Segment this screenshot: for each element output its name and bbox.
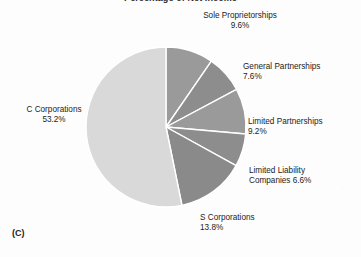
slice-label-c-corporations: C Corporations 53.2% — [8, 105, 100, 126]
slice-label-general-partnerships: General Partnerships 7.6% — [243, 62, 361, 83]
slice-label-name: Limited Liability — [249, 166, 305, 175]
slice-label-name: Limited Partnerships — [248, 117, 323, 126]
slice-label-limited-liability-companies: Limited Liability Companies 6.6% — [249, 166, 361, 187]
slice-label-sole-proprietorships: Sole Proprietorships 9.6% — [175, 11, 305, 32]
pie-svg — [86, 47, 246, 207]
slice-label-name: C Corporations — [26, 105, 81, 114]
pie-chart-figure: Percentage of Net Income Sole Proprietor… — [0, 0, 361, 257]
slice-label-value: 9.2% — [248, 127, 361, 137]
slice-label-name: S Corporations — [200, 213, 255, 222]
figure-letter: (C) — [12, 228, 25, 238]
pie-slice-group — [86, 47, 246, 207]
chart-title: Percentage of Net Income — [0, 0, 361, 3]
slice-label-value: 7.6% — [243, 72, 361, 82]
slice-label-name: General Partnerships — [243, 62, 320, 71]
slice-label-value: 9.6% — [175, 21, 305, 31]
pie-chart — [86, 47, 246, 207]
slice-label-name: Sole Proprietorships — [203, 11, 277, 20]
slice-label-value: 13.8% — [200, 223, 310, 233]
slice-label-limited-partnerships: Limited Partnerships 9.2% — [248, 117, 361, 138]
slice-label-s-corporations: S Corporations 13.8% — [200, 213, 310, 234]
slice-label-value: 53.2% — [8, 115, 100, 125]
slice-label-value: Companies 6.6% — [249, 176, 361, 186]
